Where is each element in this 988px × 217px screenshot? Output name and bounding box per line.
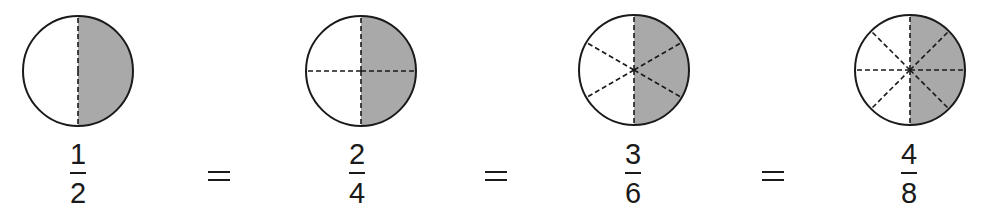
numerator: 3 xyxy=(613,140,653,169)
fraction-circle-4-8 xyxy=(855,15,965,125)
equals-sign xyxy=(208,171,230,181)
shaded-region xyxy=(78,16,133,126)
fraction-three-sixths: 3 6 xyxy=(613,140,653,210)
denominator: 6 xyxy=(613,179,653,208)
denominator: 4 xyxy=(337,179,377,208)
denominator: 8 xyxy=(889,179,929,208)
fraction-circle-1-2 xyxy=(23,16,133,126)
fraction-one-half: 1 2 xyxy=(58,140,98,210)
numerator: 1 xyxy=(58,140,98,169)
equals-sign xyxy=(485,171,507,181)
fraction-bar xyxy=(901,172,917,174)
fraction-circles xyxy=(0,0,988,217)
fraction-two-fourths: 2 4 xyxy=(337,140,377,210)
fraction-four-eighths: 4 8 xyxy=(889,140,929,210)
fraction-bar xyxy=(70,172,86,174)
fraction-circle-3-6 xyxy=(579,15,689,125)
numerator: 4 xyxy=(889,140,929,169)
fraction-bar xyxy=(349,172,365,174)
denominator: 2 xyxy=(58,179,98,208)
fraction-circle-2-4 xyxy=(306,16,416,126)
fraction-bar xyxy=(625,172,641,174)
numerator: 2 xyxy=(337,140,377,169)
equivalent-fractions-figure: 1 2 2 4 3 6 4 8 xyxy=(0,0,988,217)
shaded-region xyxy=(634,15,689,125)
equals-sign xyxy=(762,171,784,181)
